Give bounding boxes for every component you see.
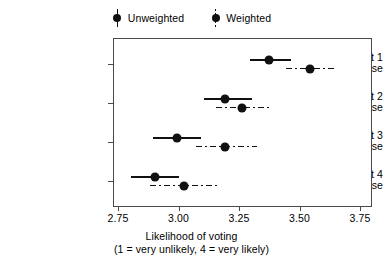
plot-panel	[113, 38, 372, 207]
data-point	[151, 173, 160, 182]
x-axis-title-main: Likelihood of voting	[146, 230, 238, 242]
x-axis-tick	[239, 207, 240, 211]
data-point	[265, 56, 274, 65]
data-point	[238, 104, 247, 113]
data-point	[306, 65, 315, 74]
legend-label-unweighted: Unweighted	[128, 13, 184, 24]
x-axis-tick-label: 2.75	[96, 212, 140, 224]
x-axis-title: Likelihood of voting (1 = very unlikely,…	[0, 230, 383, 256]
legend-label-weighted: Weighted	[226, 13, 271, 24]
x-axis-tick	[360, 207, 361, 211]
legend-item-weighted: Weighted	[210, 8, 271, 28]
x-axis-tick-label: 3.25	[217, 212, 261, 224]
data-point	[173, 134, 182, 143]
legend-marker-weighted-icon	[210, 8, 221, 28]
plot-area	[114, 39, 371, 206]
data-point	[221, 143, 230, 152]
data-point	[180, 182, 189, 191]
x-axis-tick-label: 3.75	[338, 212, 382, 224]
legend-item-unweighted: Unweighted	[112, 8, 184, 28]
x-axis-title-sub: (1 = very unlikely, 4 = very likely)	[0, 243, 383, 256]
x-axis-tick-label: 3.50	[278, 212, 322, 224]
legend-marker-unweighted-icon	[112, 8, 123, 28]
x-axis-tick	[179, 207, 180, 211]
chart-legend: Unweighted Weighted	[0, 6, 383, 30]
x-axis-tick	[118, 207, 119, 211]
data-point	[221, 95, 230, 104]
x-axis-tick-label: 3.00	[157, 212, 201, 224]
dot-whisker-chart: Unweighted Weighted Treatment 1Important…	[0, 0, 383, 265]
x-axis-tick	[300, 207, 301, 211]
